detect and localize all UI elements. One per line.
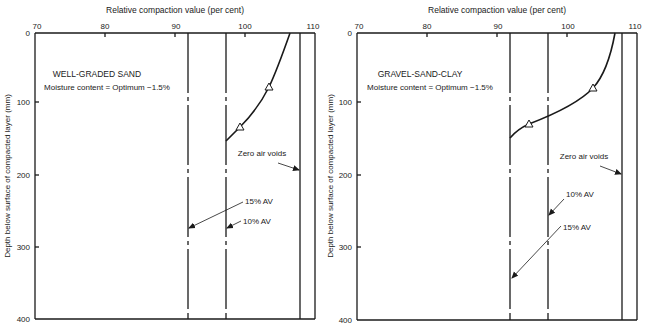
y-axis-title: Depth below surface of compacted layer (… (326, 94, 335, 258)
x-tick-label: 80 (101, 22, 110, 31)
x-axis-title: Relative compaction value (per cent) (106, 5, 244, 15)
x-axis-title: Relative compaction value (per cent) (428, 5, 566, 15)
y-tick-label: 100 (17, 98, 31, 107)
x-tick-label: 90 (494, 22, 503, 31)
arrow-icon (227, 221, 241, 228)
arrow-icon (549, 199, 564, 215)
arrow-icon (600, 166, 621, 174)
chart-title: GRAVEL-SAND-CLAY (378, 69, 463, 79)
triangle-marker (265, 83, 273, 90)
x-tick-label: 100 (238, 22, 252, 31)
x-tick-label: 70 (355, 22, 364, 31)
figure: Relative compaction value (per cent) 70 … (0, 0, 645, 328)
chart-title: WELL-GRADED SAND (53, 69, 141, 79)
y-tick-label: 300 (17, 243, 31, 252)
x-tick-label: 100 (561, 22, 575, 31)
y-tick-label: 100 (339, 98, 353, 107)
y-tick-label: 400 (339, 316, 353, 325)
annotation-15pct-av: 15% AV (563, 223, 592, 232)
chart-well-graded-sand: Relative compaction value (per cent) 70 … (3, 5, 320, 324)
annotation-10pct-av: 10% AV (566, 190, 595, 199)
y-tick-label: 200 (339, 171, 353, 180)
annotation-zero-air-voids: Zero air voids (238, 149, 286, 158)
y-tick-label: 200 (17, 171, 31, 180)
x-tick-label: 90 (172, 22, 181, 31)
chart-subtitle: Moisture content = Optimum −1.5% (44, 83, 170, 92)
y-tick-label: 300 (339, 243, 353, 252)
x-tick-label: 80 (423, 22, 432, 31)
y-tick-label: 0 (348, 29, 353, 38)
y-tick-label: 400 (17, 315, 31, 324)
arrow-icon (278, 163, 299, 170)
annotation-15pct-av: 15% AV (245, 197, 274, 206)
y-tick-label: 0 (26, 29, 31, 38)
chart-gravel-sand-clay: Relative compaction value (per cent) 70 … (326, 5, 642, 325)
annotation-zero-air-voids: Zero air voids (560, 152, 608, 161)
y-axis-title: Depth below surface of compacted layer (… (3, 94, 12, 258)
compaction-curve (510, 33, 615, 138)
annotation-10pct-av: 10% AV (243, 217, 272, 226)
x-tick-label: 70 (33, 22, 42, 31)
x-tick-label: 110 (629, 22, 642, 31)
compaction-curve (226, 33, 290, 141)
x-tick-label: 110 (307, 22, 320, 31)
chart-subtitle: Moisture content = Optimum −1.5% (367, 83, 493, 92)
arrow-icon (512, 226, 561, 278)
